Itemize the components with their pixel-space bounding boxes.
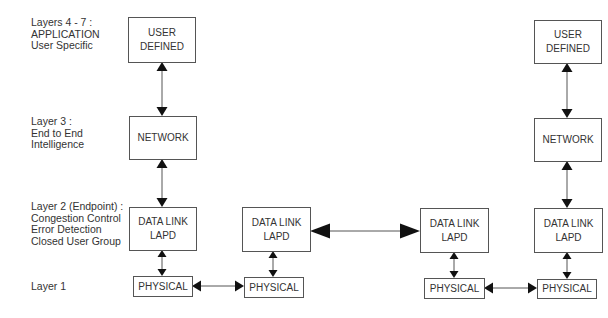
arrow-network-datalink-left bbox=[157, 159, 168, 207]
box-physical-3: PHYSICAL bbox=[425, 279, 485, 299]
arrowhead-right-icon bbox=[235, 281, 244, 292]
arrow-network-datalink-right bbox=[562, 161, 573, 208]
box-label: DATA LINK bbox=[252, 217, 302, 228]
box-data-link-4: DATA LINKLAPD bbox=[535, 209, 603, 253]
arrowhead-right-icon bbox=[400, 224, 420, 239]
box-border bbox=[535, 21, 602, 64]
box-physical-1: PHYSICAL bbox=[134, 277, 193, 297]
box-network-right: NETWORK bbox=[535, 119, 602, 162]
arrowhead-up-icon bbox=[157, 62, 168, 71]
layer-label-line: Closed User Group bbox=[31, 235, 121, 247]
box-label: LAPD bbox=[263, 231, 289, 242]
box-border bbox=[130, 208, 197, 251]
layer-label-line: Layer 3 : bbox=[31, 115, 72, 127]
arrowhead-left-icon bbox=[310, 224, 330, 239]
arrowhead-down-icon bbox=[269, 270, 278, 277]
arrowhead-up-icon bbox=[158, 250, 167, 257]
layer-label-layer-3: Layer 3 :End to EndIntelligence bbox=[31, 115, 84, 150]
box-border bbox=[243, 208, 311, 252]
box-label: PHYSICAL bbox=[138, 281, 188, 292]
box-user-defined-left: USERDEFINED bbox=[129, 18, 196, 63]
arrowhead-up-icon bbox=[269, 251, 278, 258]
arrowhead-down-icon bbox=[450, 271, 459, 278]
box-data-link-1: DATA LINKLAPD bbox=[130, 208, 197, 251]
layer-label-line: Layer 1 bbox=[31, 280, 66, 292]
box-physical-2: PHYSICAL bbox=[245, 278, 304, 298]
arrowhead-right-icon bbox=[528, 283, 537, 294]
box-label: DEFINED bbox=[140, 41, 184, 52]
layer-label-line: Layer 2 (Endpoint) : bbox=[31, 200, 123, 212]
box-label: DATA LINK bbox=[138, 216, 188, 227]
arrowhead-down-icon bbox=[562, 199, 573, 208]
box-label: PHYSICAL bbox=[430, 283, 480, 294]
layer-label-line: Layers 4 - 7 : bbox=[31, 16, 92, 28]
box-label: DEFINED bbox=[546, 43, 590, 54]
layer-label-line: Error Detection bbox=[31, 223, 102, 235]
arrow-datalink-physical-4 bbox=[563, 252, 572, 279]
box-label: LAPD bbox=[150, 230, 176, 241]
layer-labels: Layers 4 - 7 :APPLICATIONUser SpecificLa… bbox=[31, 16, 123, 292]
box-data-link-3: DATA LINKLAPD bbox=[421, 209, 489, 253]
box-label: PHYSICAL bbox=[249, 282, 299, 293]
arrowhead-up-icon bbox=[157, 159, 168, 168]
arrow-physical-3-4 bbox=[484, 283, 537, 294]
box-border bbox=[421, 209, 489, 253]
arrowhead-down-icon bbox=[157, 198, 168, 207]
box-label: DATA LINK bbox=[544, 218, 594, 229]
layer-label-line: Intelligence bbox=[31, 138, 84, 150]
box-network-left: NETWORK bbox=[130, 117, 197, 160]
box-border bbox=[129, 18, 196, 63]
box-label: DATA LINK bbox=[430, 218, 480, 229]
layer-label-layer-2: Layer 2 (Endpoint) :Congestion ControlEr… bbox=[31, 200, 123, 247]
arrowhead-up-icon bbox=[562, 161, 573, 170]
arrowhead-up-icon bbox=[563, 252, 572, 259]
arrowhead-down-icon bbox=[563, 272, 572, 279]
layer-label-line: Congestion Control bbox=[31, 212, 121, 224]
box-physical-4: PHYSICAL bbox=[538, 280, 597, 299]
layer-label-layer-1: Layer 1 bbox=[31, 280, 66, 292]
protocol-boxes: USERDEFINEDNETWORKDATA LINKLAPDPHYSICALD… bbox=[129, 18, 603, 299]
box-label: USER bbox=[148, 27, 176, 38]
box-label: PHYSICAL bbox=[542, 283, 592, 294]
arrowhead-down-icon bbox=[157, 107, 168, 116]
arrowhead-up-icon bbox=[562, 63, 573, 72]
box-data-link-2: DATA LINKLAPD bbox=[243, 208, 311, 252]
connectors bbox=[157, 62, 573, 294]
arrow-physical-1-2 bbox=[192, 281, 244, 292]
arrow-datalink-physical-3 bbox=[450, 252, 459, 278]
box-label: NETWORK bbox=[542, 134, 593, 145]
arrow-user-network-left bbox=[157, 62, 168, 116]
layer-label-layers-4-7: Layers 4 - 7 :APPLICATIONUser Specific bbox=[31, 16, 100, 51]
osi-layers-diagram: Layers 4 - 7 :APPLICATIONUser SpecificLa… bbox=[0, 0, 608, 318]
box-user-defined-right: USERDEFINED bbox=[535, 21, 602, 64]
arrowhead-down-icon bbox=[158, 269, 167, 276]
box-label: LAPD bbox=[441, 232, 467, 243]
box-label: LAPD bbox=[555, 232, 581, 243]
arrowhead-left-icon bbox=[484, 283, 493, 294]
layer-label-line: APPLICATION bbox=[31, 28, 100, 40]
box-label: NETWORK bbox=[137, 132, 188, 143]
arrow-datalink-2-3 bbox=[310, 224, 420, 239]
layer-label-line: User Specific bbox=[31, 39, 93, 51]
arrow-user-network-right bbox=[562, 63, 573, 118]
box-label: USER bbox=[554, 29, 582, 40]
arrow-datalink-physical-2 bbox=[269, 251, 278, 277]
arrowhead-down-icon bbox=[562, 109, 573, 118]
arrowhead-left-icon bbox=[192, 281, 201, 292]
box-border bbox=[535, 209, 603, 253]
arrowhead-up-icon bbox=[450, 252, 459, 259]
arrow-datalink-physical-1 bbox=[158, 250, 167, 276]
layer-label-line: End to End bbox=[31, 127, 83, 139]
